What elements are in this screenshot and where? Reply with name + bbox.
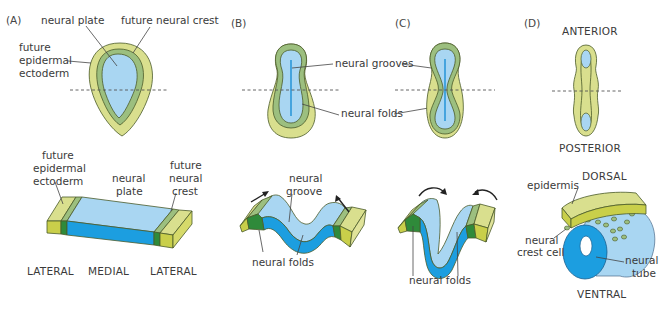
label-neural-folds-c: neural folds <box>409 274 471 286</box>
label-future-epidermal-line2: epidermal <box>19 54 72 66</box>
crest-cell <box>617 227 622 231</box>
block-label-neural: neural <box>112 172 145 184</box>
block-label-future: future <box>42 149 74 161</box>
label-neural-tube-2: tube <box>632 267 656 279</box>
label-neural-plate: neural plate <box>41 14 104 26</box>
anterior-opening <box>581 50 591 68</box>
label-neural-crest-1: neural <box>525 234 558 246</box>
label-future-epidermal-line3: ectoderm <box>19 67 69 79</box>
leader-neural-crest <box>133 27 150 53</box>
crest-cell <box>595 220 600 224</box>
curved-arrow-right-icon <box>419 188 444 196</box>
block-label-future-right: future <box>170 159 202 171</box>
panel-d-tube-view: DORSAL <box>517 170 658 300</box>
panel-a: (A) neural plate future neural crest fut… <box>6 14 219 277</box>
label-anterior: ANTERIOR <box>562 25 618 37</box>
label-lateral-right: LATERAL <box>150 265 197 277</box>
panel-d-top-view <box>552 45 622 136</box>
label-neural-folds-top: neural folds <box>341 107 403 119</box>
panel-d-label: (D) <box>524 17 540 29</box>
neurulation-diagram: (A) neural plate future neural crest fut… <box>0 0 668 313</box>
block-label-plate: plate <box>116 185 143 197</box>
label-neural-folds-b: neural folds <box>252 256 314 268</box>
label-neural-crest-2: crest cell <box>517 246 564 258</box>
panel-c-label: (C) <box>395 17 411 29</box>
label-epidermis: epidermis <box>527 179 579 191</box>
block-label-neural-right: neural <box>169 172 202 184</box>
label-neural-groove-1: neural <box>289 172 322 184</box>
label-neural-tube-1: neural <box>625 254 658 266</box>
label-neural-grooves: neural grooves <box>335 57 414 69</box>
block-front-crest-left <box>61 221 67 235</box>
block-front-epidermal-left <box>47 221 61 234</box>
crest-cell <box>603 223 608 227</box>
block-front-crest-right <box>154 232 160 246</box>
crest-cell <box>624 220 629 224</box>
block-front-epidermal-right <box>160 233 173 248</box>
panel-a-top-view: neural plate future neural crest future … <box>19 14 219 136</box>
posterior-opening <box>581 113 591 131</box>
label-future-neural-crest: future neural crest <box>121 14 219 26</box>
panel-a-label: (A) <box>6 14 21 26</box>
panel-c-block-view: neural folds <box>398 188 497 286</box>
crest-cell <box>612 237 617 241</box>
block-label-epidermal: epidermal <box>33 162 86 174</box>
crest-cell <box>621 235 626 239</box>
label-ventral: VENTRAL <box>577 288 626 300</box>
panel-a-block-view: future epidermal ectoderm neural plate f… <box>27 149 202 277</box>
label-posterior: POSTERIOR <box>559 142 621 154</box>
label-future-epidermal-line1: future <box>19 41 51 53</box>
curved-arrow-left-head <box>472 189 479 195</box>
neural-tube-lumen <box>580 236 592 256</box>
crest-cell <box>610 229 615 233</box>
panel-b-label: (B) <box>231 17 246 29</box>
leader-fold-left <box>259 230 263 252</box>
panel-d: (D) ANTERIOR POSTERIOR DORSAL <box>517 17 658 300</box>
label-medial: MEDIAL <box>88 265 129 277</box>
label-dorsal: DORSAL <box>582 170 627 182</box>
panel-b-block-view: neural groove neural folds <box>240 172 366 268</box>
block-label-ectoderm: ectoderm <box>33 175 83 187</box>
label-neural-groove-2: groove <box>286 185 322 197</box>
label-lateral-left: LATERAL <box>27 265 74 277</box>
crest-cell <box>611 217 616 221</box>
panel-b-top-view <box>242 44 340 138</box>
block-label-crest-right: crest <box>172 185 198 197</box>
